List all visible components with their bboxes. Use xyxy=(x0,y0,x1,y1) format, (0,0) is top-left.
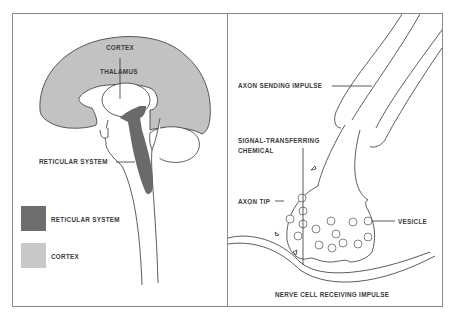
label-thalamus: THALAMUS xyxy=(100,68,138,75)
myelin-sheath xyxy=(335,14,402,128)
legend-label-reticular: RETICULAR SYSTEM xyxy=(51,216,120,223)
label-vesicle: VESICLE xyxy=(398,218,427,225)
vesicles xyxy=(286,194,372,252)
label-signal-line2: CHEMICAL xyxy=(238,147,274,154)
legend-swatch-cortex xyxy=(21,243,46,268)
receiving-cell-membrane xyxy=(228,236,430,273)
label-axon-tip: AXON TIP xyxy=(238,198,270,205)
release-arrow-icon xyxy=(311,166,316,170)
label-nerve-cell: NERVE CELL RECEIVING IMPULSE xyxy=(275,291,389,298)
label-axon-sending: AXON SENDING IMPULSE xyxy=(238,82,322,89)
axon-body xyxy=(318,125,345,186)
label-cortex: CORTEX xyxy=(106,44,134,51)
label-reticular-system: RETICULAR SYSTEM xyxy=(39,158,108,165)
release-arrow-icon xyxy=(275,232,279,236)
legend-swatch-reticular xyxy=(21,206,46,231)
label-signal-line1: SIGNAL-TRANSFERRING xyxy=(238,137,320,144)
pituitary-bump xyxy=(100,128,108,138)
legend-label-cortex: CORTEX xyxy=(51,253,79,260)
